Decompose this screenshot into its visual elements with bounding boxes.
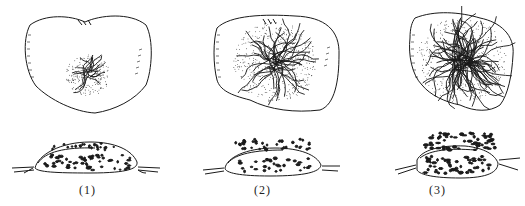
stipple-dot — [67, 69, 68, 70]
stipple-dot — [437, 69, 438, 70]
stipple-dot — [294, 88, 295, 89]
stipple-dot — [497, 51, 498, 52]
stipple-dot — [264, 87, 265, 88]
stipple-dot — [299, 79, 300, 80]
endosperm-speck — [430, 155, 432, 158]
stipple-dot — [468, 68, 469, 69]
stipple-dot — [305, 82, 306, 83]
stipple-dot — [237, 53, 238, 54]
stipple-dot — [247, 85, 248, 86]
endosperm-speck — [127, 165, 130, 167]
endosperm-speck — [488, 136, 491, 137]
stipple-dot — [473, 98, 474, 99]
stipple-dot — [425, 60, 426, 61]
stipple-dot — [443, 79, 444, 80]
stipple-dot — [105, 81, 106, 82]
stipple-dot — [450, 53, 451, 54]
stipple-dot — [300, 38, 301, 39]
endosperm-speck — [79, 156, 83, 158]
stipple-dot — [312, 69, 313, 70]
stipple-dot — [302, 69, 303, 70]
stipple-dot — [258, 38, 259, 39]
stipple-dot — [287, 98, 288, 99]
stipple-dot — [292, 44, 293, 45]
stipple-dot — [77, 76, 78, 77]
stipple-dot — [422, 70, 423, 71]
stipple-dot — [249, 78, 250, 79]
stipple-dot — [422, 55, 423, 56]
stipple-dot — [290, 96, 291, 97]
stipple-dot — [422, 65, 423, 66]
stipple-dot — [253, 58, 254, 59]
stipple-dot — [268, 101, 269, 102]
stipple-dot — [261, 35, 262, 36]
stipple-dot — [242, 70, 243, 71]
stipple-dot — [77, 65, 78, 66]
stipple-dot — [421, 53, 422, 54]
stipple-dot — [442, 35, 443, 36]
stipple-dot — [293, 77, 294, 78]
stipple-dot — [238, 69, 239, 70]
endosperm-speck — [262, 161, 265, 162]
stipple-dot — [237, 64, 238, 65]
stipple-dot — [443, 92, 444, 93]
stipple-dot — [504, 69, 505, 70]
stipple-dot — [108, 70, 109, 71]
endosperm-speck — [254, 138, 256, 140]
stipple-dot — [254, 83, 255, 84]
stipple-dot — [445, 87, 446, 88]
stipple-dot — [473, 32, 474, 33]
stipple-dot — [464, 27, 465, 28]
stipple-dot — [276, 22, 277, 23]
endosperm-speck — [489, 139, 494, 141]
stipple-dot — [278, 97, 279, 98]
endosperm-speck — [457, 170, 459, 172]
stipple-dot — [107, 71, 108, 72]
stipple-dot — [238, 66, 239, 67]
stipple-dot — [67, 70, 68, 71]
stipple-dot — [453, 99, 454, 100]
stipple-dot — [478, 26, 479, 27]
stipple-dot — [421, 42, 422, 43]
stipple-dot — [462, 87, 463, 88]
stipple-dot — [243, 62, 244, 63]
stipple-dot — [241, 66, 242, 67]
hypha-branch — [73, 76, 88, 92]
stipple-dot — [434, 92, 435, 93]
stipple-dot — [72, 80, 73, 81]
stipple-dot — [259, 37, 260, 38]
endosperm-speck — [292, 141, 295, 144]
stipple-dot — [483, 51, 484, 52]
endosperm-speck — [483, 147, 486, 149]
stipple-dot — [262, 75, 263, 76]
stipple-dot — [311, 75, 312, 76]
stipple-dot — [427, 74, 428, 75]
stipple-dot — [97, 91, 98, 92]
endosperm-speck — [491, 143, 495, 145]
stipple-dot — [69, 66, 70, 67]
panel-3-drawing — [350, 0, 525, 206]
stipple-dot — [292, 88, 293, 89]
stipple-dot — [450, 94, 451, 95]
stipple-dot — [421, 49, 422, 50]
stipple-dot — [243, 37, 244, 38]
stipple-dot — [259, 31, 260, 32]
stipple-dot — [101, 77, 102, 78]
stipple-dot — [465, 30, 466, 31]
stipple-dot — [470, 20, 471, 21]
endosperm-speck — [101, 154, 103, 156]
stipple-dot — [259, 61, 260, 62]
stipple-dot — [305, 68, 306, 69]
stipple-dot — [255, 62, 256, 63]
stipple-dot — [257, 38, 258, 39]
stipple-dot — [69, 64, 70, 65]
endosperm-speck — [124, 168, 126, 170]
endosperm-speck — [432, 135, 434, 137]
stipple-dot — [82, 65, 83, 66]
stipple-dot — [263, 85, 264, 86]
stipple-dot — [307, 69, 308, 70]
endosperm-speck — [427, 158, 431, 161]
stipple-dot — [82, 78, 83, 79]
stipple-dot — [238, 60, 239, 61]
endosperm-speck — [436, 142, 441, 143]
